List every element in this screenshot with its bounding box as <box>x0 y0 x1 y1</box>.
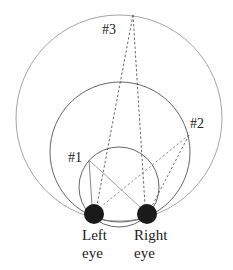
line-p1-right <box>89 160 140 207</box>
label-point-2: #2 <box>190 116 204 131</box>
left-eye-label-line1: Left <box>82 227 108 243</box>
label-point-1: #1 <box>68 150 82 165</box>
label-point-3: #3 <box>102 22 116 37</box>
right-eye-label-line2: eye <box>134 245 155 261</box>
line-p2-left <box>102 135 189 206</box>
line-p3-left <box>97 15 133 205</box>
line-p2-right <box>152 135 189 206</box>
binocular-vieth-muller-diagram: #3 #2 #1 Left eye Right eye <box>0 0 233 270</box>
left-eye-label-line2: eye <box>82 245 103 261</box>
line-p3-right <box>133 15 145 205</box>
left-eye <box>84 204 104 224</box>
right-eye <box>137 204 157 224</box>
right-eye-label-line1: Right <box>134 227 168 243</box>
line-p1-left <box>89 160 92 205</box>
